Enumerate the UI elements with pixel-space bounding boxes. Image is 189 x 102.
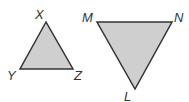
vertex-label-n: N [174,10,184,25]
vertex-label-m: M [82,10,93,25]
vertex-label-z: Z [73,68,83,83]
vertex-label-y: Y [7,68,17,83]
triangle-mnl [97,22,172,89]
triangle-xyz [20,22,73,69]
vertex-label-x: X [34,7,45,22]
diagram-canvas: X Y Z M N L [0,0,189,102]
vertex-label-l: L [124,89,131,102]
